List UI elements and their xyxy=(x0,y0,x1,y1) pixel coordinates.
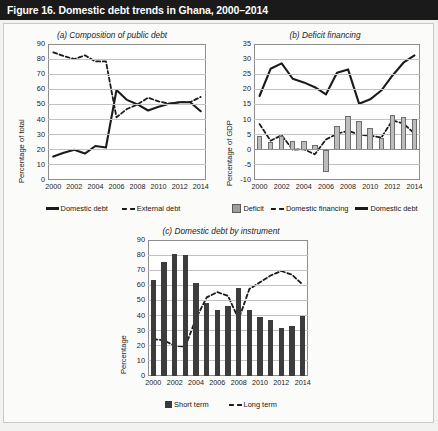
y-axis-tick-label: 10 xyxy=(128,357,145,364)
bar xyxy=(401,117,407,150)
bar xyxy=(257,317,262,376)
bar xyxy=(247,310,252,376)
gridline xyxy=(48,89,206,90)
y-axis-tick-label: 50 xyxy=(128,296,145,303)
y-axis-tick-label: -5 xyxy=(234,161,251,168)
dashed-line-swatch-icon xyxy=(229,404,242,406)
y-axis-tick-label: 35 xyxy=(234,40,251,47)
gridline xyxy=(254,119,420,120)
y-axis-tick-label: 10 xyxy=(234,116,251,123)
legend-item-domestic-debt: Domestic debt xyxy=(46,204,108,213)
y-axis-tick-label: 70 xyxy=(128,266,145,273)
bar xyxy=(345,116,351,150)
bar xyxy=(151,280,156,376)
x-axis-tick-label: 2014 xyxy=(188,183,214,190)
gridline xyxy=(254,74,420,75)
gridline xyxy=(48,104,206,105)
gridline xyxy=(48,74,206,75)
gridline xyxy=(254,89,420,90)
chart-c-domestic-debt-by-instrument: (c) Domestic debt by instrument Percenta… xyxy=(96,226,346,418)
y-axis-tick-label: 60 xyxy=(28,85,45,92)
bar xyxy=(279,136,285,150)
chart-b-legend: Deficit Domestic financing Domestic debt xyxy=(222,204,428,213)
bar xyxy=(257,136,263,150)
chart-a-legend: Domestic debt External debt xyxy=(18,204,208,213)
dashed-line-swatch-icon xyxy=(271,208,284,210)
bar xyxy=(390,115,396,150)
bar xyxy=(193,283,198,376)
series-line xyxy=(260,55,415,103)
zero-baseline xyxy=(254,149,420,150)
bar xyxy=(172,254,177,376)
bar xyxy=(334,126,340,150)
bar xyxy=(323,150,329,172)
x-axis-tick-label: 2014 xyxy=(401,183,427,190)
legend-label: Domestic financing xyxy=(286,204,348,213)
gridline xyxy=(254,164,420,165)
x-axis-tick-label: 2014 xyxy=(290,379,316,386)
y-axis-tick-label: 40 xyxy=(128,312,145,319)
y-axis-tick-label: 20 xyxy=(234,85,251,92)
bar xyxy=(379,138,385,150)
y-axis-tick-label: 30 xyxy=(28,131,45,138)
gridline xyxy=(48,134,206,135)
y-axis-tick-label: 20 xyxy=(128,342,145,349)
solid-line-swatch-icon xyxy=(46,207,59,209)
legend-item-external-debt: External debt xyxy=(122,204,181,213)
y-axis-tick-label: 5 xyxy=(234,131,251,138)
y-axis-tick-label: 15 xyxy=(234,100,251,107)
bar xyxy=(289,326,294,376)
y-axis-tick-label: 25 xyxy=(234,70,251,77)
legend-label: Short term xyxy=(174,400,209,409)
legend-item-domestic-financing: Domestic financing xyxy=(271,204,348,213)
chart-b-deficit-financing: (b) Deficit financing Percentage of GDP … xyxy=(218,28,432,224)
series-line xyxy=(53,52,200,117)
legend-label: Domestic debt xyxy=(61,204,108,213)
y-axis-tick-label: 60 xyxy=(128,281,145,288)
figure-title-bar: Figure 16. Domestic debt trends in Ghana… xyxy=(0,0,438,20)
legend-item-long-term: Long term xyxy=(229,400,277,409)
y-axis-tick-label: 0 xyxy=(234,146,251,153)
legend-label: Deficit xyxy=(243,204,264,213)
legend-label: External debt xyxy=(137,204,181,213)
bar xyxy=(161,262,166,376)
y-axis-tick-label: 10 xyxy=(28,161,45,168)
gridline xyxy=(48,59,206,60)
figure-panel: (a) Composition of public debt Percentag… xyxy=(3,23,434,423)
y-axis-tick-label: 90 xyxy=(128,236,145,243)
bar xyxy=(367,128,373,149)
bar xyxy=(204,303,209,376)
solid-line-swatch-icon xyxy=(355,207,368,209)
gridline xyxy=(48,164,206,165)
bar xyxy=(268,320,273,376)
legend-label: Domestic debt xyxy=(370,204,417,213)
chart-b-series-svg xyxy=(254,44,420,180)
y-axis-tick-label: 80 xyxy=(28,55,45,62)
series-line xyxy=(53,90,200,156)
chart-c-legend: Short term Long term xyxy=(121,400,321,409)
y-axis-tick-label: 40 xyxy=(28,116,45,123)
y-axis-tick-label: 30 xyxy=(234,55,251,62)
y-axis-tick-label: 30 xyxy=(128,327,145,334)
bar xyxy=(215,310,220,376)
legend-label: Long term xyxy=(244,400,277,409)
bar xyxy=(236,288,241,376)
chart-c-ylabel: Percentage xyxy=(119,335,128,374)
bar xyxy=(279,328,284,376)
chart-c-title: (c) Domestic debt by instrument xyxy=(96,226,346,236)
figure-title: Figure 16. Domestic debt trends in Ghana… xyxy=(0,4,268,16)
y-axis-tick-label: 90 xyxy=(28,40,45,47)
y-axis-tick-label: 20 xyxy=(28,146,45,153)
gridline xyxy=(48,149,206,150)
legend-item-short-term: Short term xyxy=(165,400,209,409)
gridline xyxy=(48,119,206,120)
legend-item-domestic-debt: Domestic debt xyxy=(355,204,417,213)
y-axis-tick-label: 80 xyxy=(128,251,145,258)
chart-a-series-svg xyxy=(48,44,206,180)
chart-b-ylabel: Percentage of GDP xyxy=(225,120,234,186)
gridline xyxy=(254,104,420,105)
bar xyxy=(183,255,188,376)
chart-a-ylabel: Percentage of total xyxy=(17,119,26,183)
legend-item-deficit: Deficit xyxy=(232,204,264,213)
bar xyxy=(356,121,362,149)
